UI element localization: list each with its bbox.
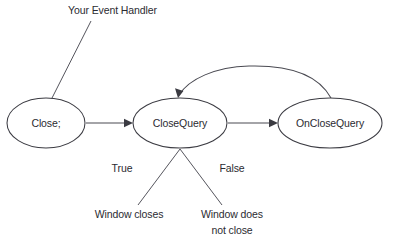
arrowhead-closequery-to-onclosequery-icon	[269, 119, 278, 128]
edge-onclosequery-to-closequery	[179, 66, 331, 98]
diagram-canvas: Close; CloseQuery OnCloseQuery Your Even…	[0, 0, 393, 245]
node-onclosequery-label: OnCloseQuery	[296, 117, 365, 129]
annotation-false: False	[219, 162, 244, 174]
arrowhead-close-to-closequery-icon	[124, 119, 133, 128]
annotation-window-does-not-close-line1: Window does	[201, 208, 263, 220]
branch-line-false	[180, 149, 222, 205]
leader-line-event-handler	[51, 21, 91, 100]
annotation-true: True	[112, 162, 133, 174]
annotation-window-does-not-close-line2: not close	[211, 224, 252, 236]
branch-line-true	[138, 149, 180, 205]
annotation-your-event-handler: Your Event Handler	[68, 4, 157, 16]
node-closequery-label: CloseQuery	[153, 117, 208, 129]
annotation-window-closes: Window closes	[95, 208, 164, 220]
flow-diagram: Close; CloseQuery OnCloseQuery Your Even…	[0, 0, 393, 245]
node-close-label: Close;	[31, 117, 60, 129]
arrowhead-feedback-icon	[175, 88, 183, 98]
